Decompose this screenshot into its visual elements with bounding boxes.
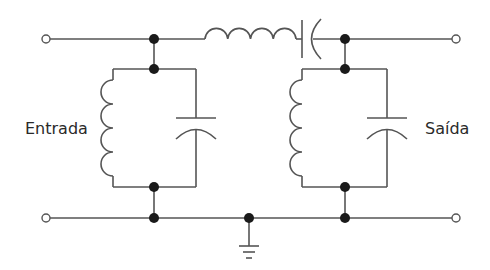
junction-node [149, 64, 159, 74]
left-shunt-inductor [101, 80, 113, 176]
input-top-terminal [42, 35, 50, 43]
junction-node [340, 64, 350, 74]
input-bottom-terminal [42, 214, 50, 222]
right-shunt-inductor [290, 80, 302, 176]
output-label: Saída [425, 119, 469, 138]
circuit-diagram: Entrada Saída [0, 0, 490, 270]
junction-node [149, 213, 159, 223]
junction-node [149, 34, 159, 44]
output-bottom-terminal [452, 214, 460, 222]
ground-junction-node [244, 213, 254, 223]
output-top-terminal [452, 35, 460, 43]
input-label: Entrada [25, 119, 88, 138]
junction-node [340, 213, 350, 223]
junction-node [340, 34, 350, 44]
series-inductor [205, 28, 296, 39]
junction-node [149, 182, 159, 192]
junction-node [340, 182, 350, 192]
